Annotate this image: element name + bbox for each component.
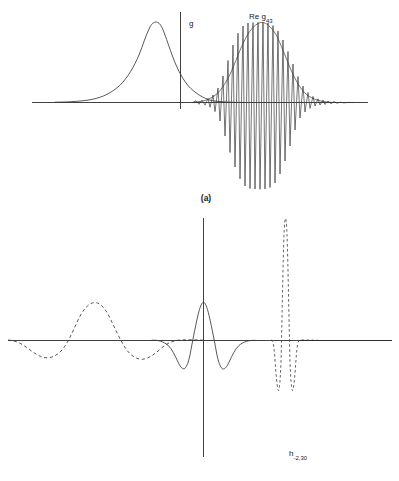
panel-a-plot [0,0,399,212]
label-re-g43: Re g43 [249,13,273,23]
gaussian-window-curve [55,22,244,103]
label-h-minus2-30: h-2,30 [289,450,307,460]
panel-a: g Re g43 (a) [0,0,399,212]
caption-panel-a: (a) [186,194,226,203]
label-h-minus2-30-subscript: -2,30 [293,455,307,461]
label-re-g43-main: Re g [249,12,266,21]
panel-b-curves [0,212,399,481]
label-re-g43-subscript: 43 [266,18,273,24]
packet-oscillation-curve [193,22,354,189]
wavelet-h-minus2-30-curve [271,219,318,391]
wavelet-h1-minus6-curve [8,303,203,360]
figure-container: g Re g43 (a) h1,-6 h h-2,30 (b) [0,0,399,481]
label-gaussian-g: g [189,20,193,28]
panel-b: h1,-6 h h-2,30 (b) [0,212,399,481]
